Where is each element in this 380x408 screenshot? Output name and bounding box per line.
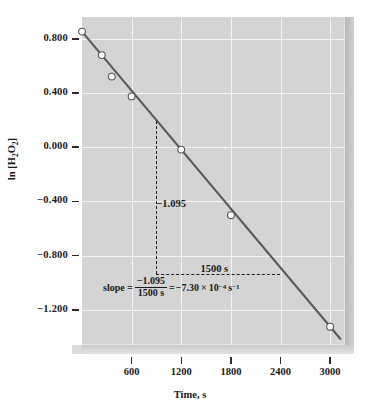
x-tick-mark	[181, 357, 183, 364]
x-axis-title: Time, s	[0, 389, 380, 400]
slope-result-unit-exponent: −1	[232, 283, 240, 291]
annotation-run-label: 1500 s	[200, 263, 228, 274]
slope-result-base: 10	[209, 282, 219, 293]
y-tick-mark	[72, 38, 79, 40]
y-tick-label: 0.400	[43, 86, 68, 97]
y-tick-mark	[72, 146, 79, 148]
data-point-marker	[228, 212, 235, 219]
annotation-dashed-vertical	[156, 121, 157, 274]
slope-label: slope =	[103, 282, 133, 293]
data-point-marker	[98, 52, 105, 59]
y-axis-title: ln [H2O2]	[6, 94, 20, 224]
x-tick-mark	[230, 357, 232, 364]
x-tick-mark	[329, 357, 331, 364]
y-tick-mark	[72, 201, 79, 203]
y-tick-mark	[72, 309, 79, 311]
y-tick-label: −1.200	[37, 303, 68, 314]
x-tick-label: 3000	[320, 366, 341, 377]
annotation-rise-label: −1.095	[156, 198, 186, 209]
slope-denominator: 1500 s	[136, 288, 166, 299]
slope-result-mantissa: −7.30	[176, 282, 199, 293]
plot-slab-corner	[72, 345, 82, 354]
slope-numerator: −1.095	[135, 276, 167, 288]
data-point-marker	[128, 93, 135, 100]
x-tick-label: 2400	[270, 366, 291, 377]
slope-result-exponent: −4	[219, 283, 227, 291]
y-tick-mark	[72, 92, 79, 94]
x-tick-label: 1800	[220, 366, 241, 377]
y-tick-label: −0.400	[37, 194, 68, 205]
y-tick-label: 0.800	[43, 32, 68, 43]
y-tick-label: −0.800	[37, 249, 68, 260]
x-tick-label: 1200	[171, 366, 192, 377]
plot-slab-right-edge	[345, 17, 354, 349]
slope-fraction: −1.095 1500 s	[135, 276, 167, 298]
x-tick-mark	[131, 357, 133, 364]
x-tick-mark	[280, 357, 282, 364]
plot-slab-bottom-edge	[72, 345, 354, 354]
annotation-dashed-horizontal	[156, 274, 280, 275]
slope-annotation: slope = −1.095 1500 s = −7.30 × 10 −4 s …	[103, 276, 240, 298]
slope-equals: =	[169, 282, 175, 293]
y-tick-mark	[72, 255, 79, 257]
y-tick-label: 0.000	[43, 140, 68, 151]
data-point-marker	[327, 323, 334, 330]
chart-figure: −1.0951500 s 0.8000.4000.000−0.400−0.800…	[0, 0, 380, 408]
x-tick-label: 600	[124, 366, 140, 377]
data-point-marker	[178, 146, 185, 153]
data-point-marker	[79, 28, 86, 35]
slope-result-times: ×	[201, 282, 207, 293]
data-point-marker	[108, 73, 115, 80]
